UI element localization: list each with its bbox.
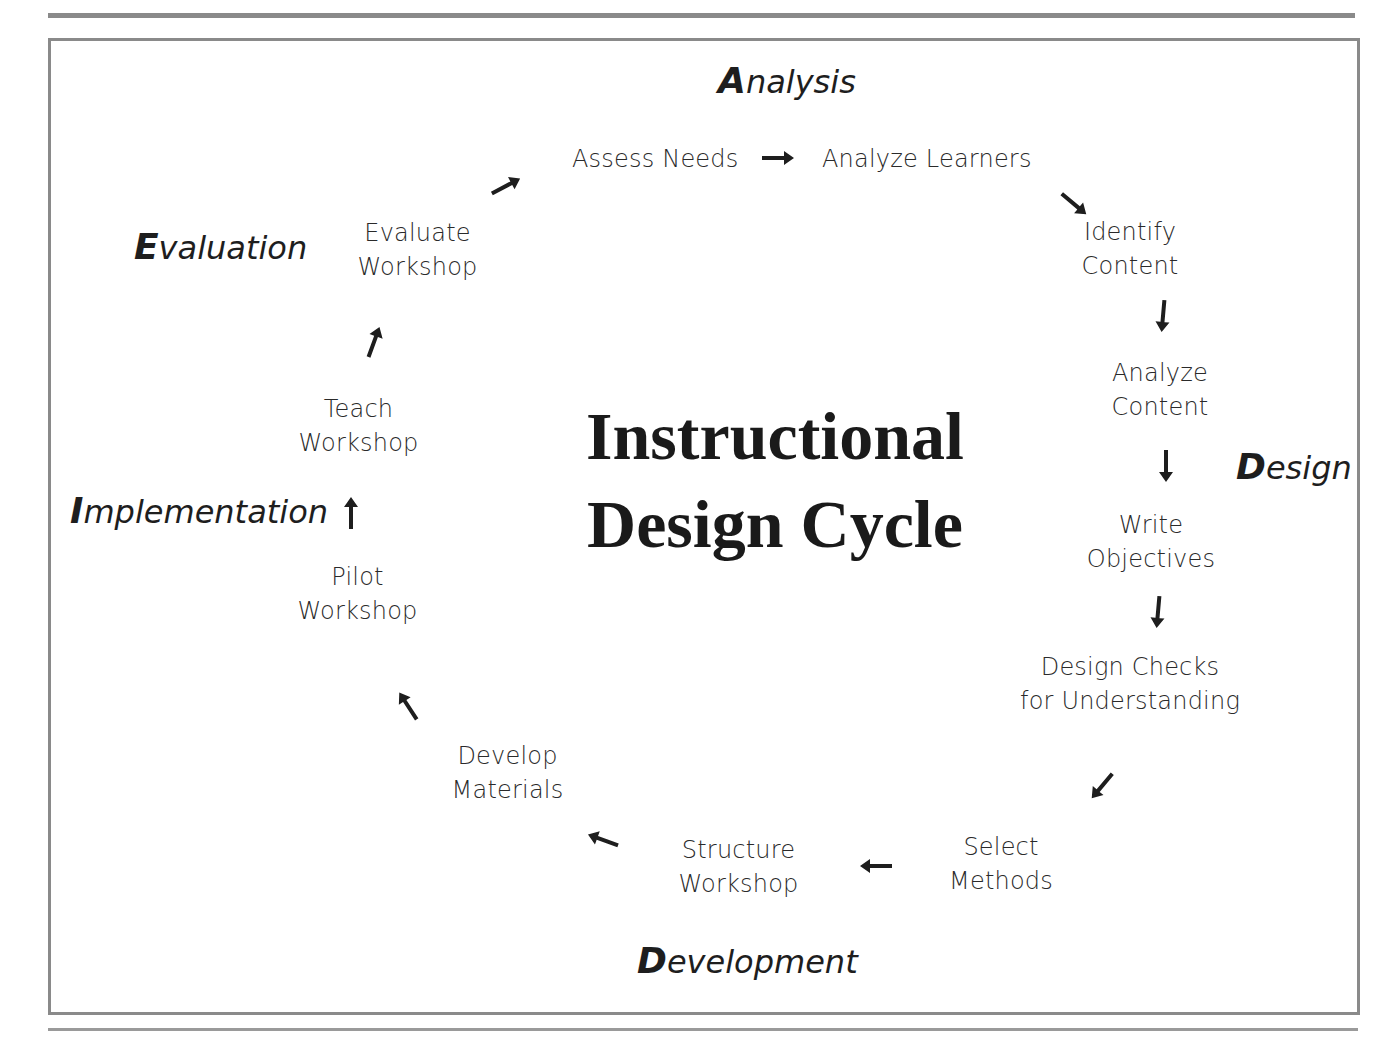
- step-analyze-learners: Analyze Learners: [822, 142, 1027, 176]
- phase-implementation: Implementation: [70, 490, 328, 531]
- arrow-down-icon: [1143, 296, 1182, 335]
- step-design-checks: Design Checks for Understanding: [1010, 650, 1250, 718]
- step-write-objectives: Write Objectives: [1076, 508, 1226, 576]
- arrow-down-icon: [1148, 448, 1184, 484]
- phase-analysis: Analysis: [718, 60, 856, 101]
- diagram-title: Instructional Design Cycle: [520, 392, 1030, 568]
- bottom-rule: [48, 1028, 1358, 1031]
- top-rule: [48, 13, 1355, 18]
- arrow-down-icon: [1138, 592, 1177, 631]
- step-select-methods: Select Methods: [936, 830, 1066, 898]
- step-structure-workshop: Structure Workshop: [666, 833, 811, 901]
- arrow-right-icon: [760, 140, 796, 176]
- step-analyze-content: Analyze Content: [1090, 356, 1230, 424]
- step-teach-workshop: Teach Workshop: [286, 392, 431, 460]
- phase-development: Development: [637, 940, 858, 981]
- step-evaluate-workshop: Evaluate Workshop: [345, 216, 490, 284]
- step-pilot-workshop: Pilot Workshop: [285, 560, 430, 628]
- arrow-left-icon: [858, 848, 894, 884]
- phase-evaluation: Evaluation: [134, 226, 307, 267]
- step-assess-needs: Assess Needs: [572, 142, 732, 176]
- step-identify-content: Identify Content: [1060, 215, 1200, 283]
- step-develop-materials: Develop Materials: [440, 739, 575, 807]
- phase-design: Design: [1236, 446, 1352, 487]
- arrow-up-icon: [333, 495, 369, 531]
- title-line-2: Design Cycle: [520, 480, 1030, 568]
- title-line-1: Instructional: [520, 392, 1030, 480]
